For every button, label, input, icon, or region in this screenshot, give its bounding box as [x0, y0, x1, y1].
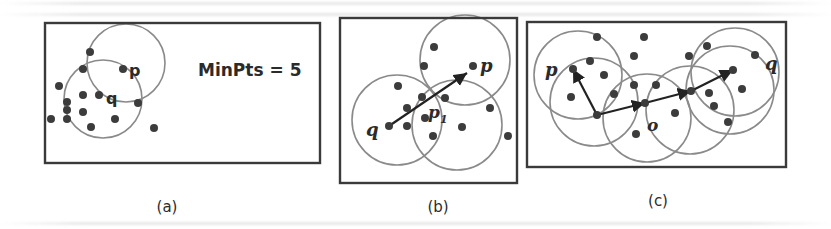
reachability-arrow: [573, 69, 597, 115]
point-label-q: q: [106, 89, 117, 108]
data-point: [394, 82, 402, 90]
data-point: [385, 122, 393, 130]
data-point: [403, 122, 411, 130]
data-point: [111, 115, 119, 123]
point-label-o: o: [647, 115, 658, 135]
panel-c-density-connected: pqo: [527, 22, 786, 167]
data-point: [671, 109, 679, 117]
data-point: [429, 132, 437, 140]
panel-label-c: (c): [648, 192, 668, 210]
reachability-arrow: [691, 70, 733, 91]
data-point: [593, 111, 601, 119]
data-point: [703, 42, 711, 50]
data-point: [641, 99, 649, 107]
data-point: [600, 71, 608, 79]
data-point: [632, 130, 640, 138]
eps-neighborhood-circle: [550, 58, 638, 146]
dbscan-figure: pqMinPts = 5 pqp1 pqo (a) (b) (c): [0, 0, 831, 229]
data-point: [119, 65, 127, 73]
data-point: [458, 123, 466, 131]
data-point: [567, 93, 575, 101]
data-point: [430, 43, 438, 51]
data-point: [63, 98, 71, 106]
data-point: [729, 66, 737, 74]
data-point: [134, 99, 142, 107]
data-point: [685, 52, 693, 60]
data-point: [469, 62, 477, 70]
minpts-annotation: MinPts = 5: [198, 60, 301, 80]
point-label-q: q: [366, 119, 379, 140]
data-point: [420, 62, 428, 70]
data-point: [630, 81, 638, 89]
data-point: [586, 57, 594, 65]
data-point: [79, 65, 87, 73]
panel-label-b: (b): [427, 198, 448, 216]
point-label-p: p: [545, 59, 558, 80]
data-point: [55, 82, 63, 90]
panel-label-a: (a): [157, 198, 178, 216]
eps-neighborhood-circle: [412, 80, 502, 170]
data-point: [63, 106, 71, 114]
data-point: [79, 91, 87, 99]
point-label-p: p: [428, 102, 440, 122]
data-point: [630, 52, 638, 60]
data-point: [47, 115, 55, 123]
data-point: [569, 65, 577, 73]
reachability-arrow: [645, 91, 691, 103]
data-point: [95, 91, 103, 99]
eps-neighborhood-circle: [420, 15, 510, 105]
data-point: [441, 94, 449, 102]
data-point: [86, 48, 94, 56]
data-point: [63, 115, 71, 123]
data-point: [751, 51, 759, 59]
data-point: [687, 87, 695, 95]
point-label-q: q: [765, 53, 778, 74]
panel-a-directly-density-reachable: pqMinPts = 5: [45, 23, 320, 163]
data-point: [593, 33, 601, 41]
data-point: [79, 108, 87, 116]
data-point: [150, 124, 158, 132]
point-label-p: p: [129, 61, 140, 80]
point-label-p: p: [480, 55, 493, 76]
data-point: [710, 102, 718, 110]
data-point: [403, 104, 411, 112]
data-point: [418, 93, 426, 101]
data-point: [87, 123, 95, 131]
data-point: [705, 89, 713, 97]
panel-b-density-reachable: pqp1: [340, 15, 517, 183]
data-point: [486, 104, 494, 112]
eps-neighborhood-circle: [87, 24, 165, 102]
panel-frame: [527, 22, 786, 167]
data-point: [652, 81, 660, 89]
point-label-1: 1: [440, 113, 448, 126]
data-point: [738, 85, 746, 93]
panel-frame: [340, 18, 517, 183]
data-point: [610, 90, 618, 98]
data-point: [640, 33, 648, 41]
data-point: [724, 118, 732, 126]
diagram-canvas: pqMinPts = 5 pqp1 pqo: [0, 0, 831, 229]
data-point: [504, 132, 512, 140]
